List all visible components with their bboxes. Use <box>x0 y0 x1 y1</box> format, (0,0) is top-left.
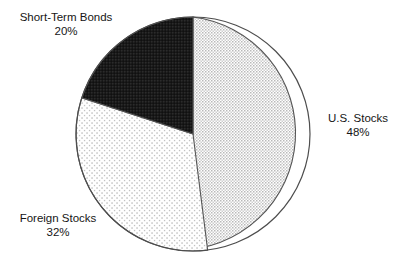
slice-label-foreign-stocks: Foreign Stocks 32% <box>6 212 110 239</box>
slice-label-short-term-bonds: Short-Term Bonds 20% <box>10 11 122 38</box>
slice-label-foreign-stocks-percent: 32% <box>6 226 110 240</box>
slice-label-short-term-bonds-percent: 20% <box>10 25 122 39</box>
pie-chart-figure: Recommended Asset Allocation <box>0 0 397 255</box>
chart-title-fragment: Recommended Asset Allocation <box>0 0 397 2</box>
pie-svg <box>76 17 310 251</box>
pie-graphic <box>76 17 310 251</box>
slice-label-us-stocks-percent: 48% <box>322 126 394 140</box>
slice-label-foreign-stocks-name: Foreign Stocks <box>6 212 110 226</box>
slice-label-short-term-bonds-name: Short-Term Bonds <box>10 11 122 25</box>
slice-label-us-stocks-name: U.S. Stocks <box>322 112 394 126</box>
slice-label-us-stocks: U.S. Stocks 48% <box>322 112 394 139</box>
